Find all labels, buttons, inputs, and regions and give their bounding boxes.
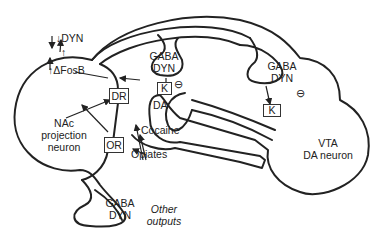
or-receptor-box: OR — [104, 137, 124, 153]
opiates-label: Opiates — [131, 148, 167, 160]
dyn-down-label: ↓DYN — [56, 32, 83, 44]
vta-da-neuron-label: VTA DA neuron — [293, 137, 363, 161]
fosb-up-label: ↑ΔFosB — [48, 64, 85, 76]
cocaine-label: Cocaine — [141, 124, 180, 136]
gaba-dyn-bottom: GABA DYN — [102, 197, 138, 221]
dr-receptor-box: DR — [109, 88, 129, 104]
other-outputs-label: Other outputs — [144, 203, 184, 227]
kappa-receptor-nac-box: K — [157, 82, 172, 95]
up-arrow-between: ↑ — [61, 46, 66, 58]
gaba-dyn-top-right: GABA DYN — [264, 60, 300, 84]
inhibition-icon-vta: ⊖ — [296, 87, 305, 99]
gaba-dyn-top-middle: GABA DYN — [146, 50, 182, 74]
nac-neuron-label: NAc projection neuron — [34, 117, 94, 153]
da-terminal-label: DA — [153, 99, 168, 111]
nac-neuron-outline — [92, 17, 369, 194]
kappa-receptor-vta-box: K — [263, 104, 281, 117]
inhibition-icon-nac: ⊖ — [174, 78, 183, 90]
